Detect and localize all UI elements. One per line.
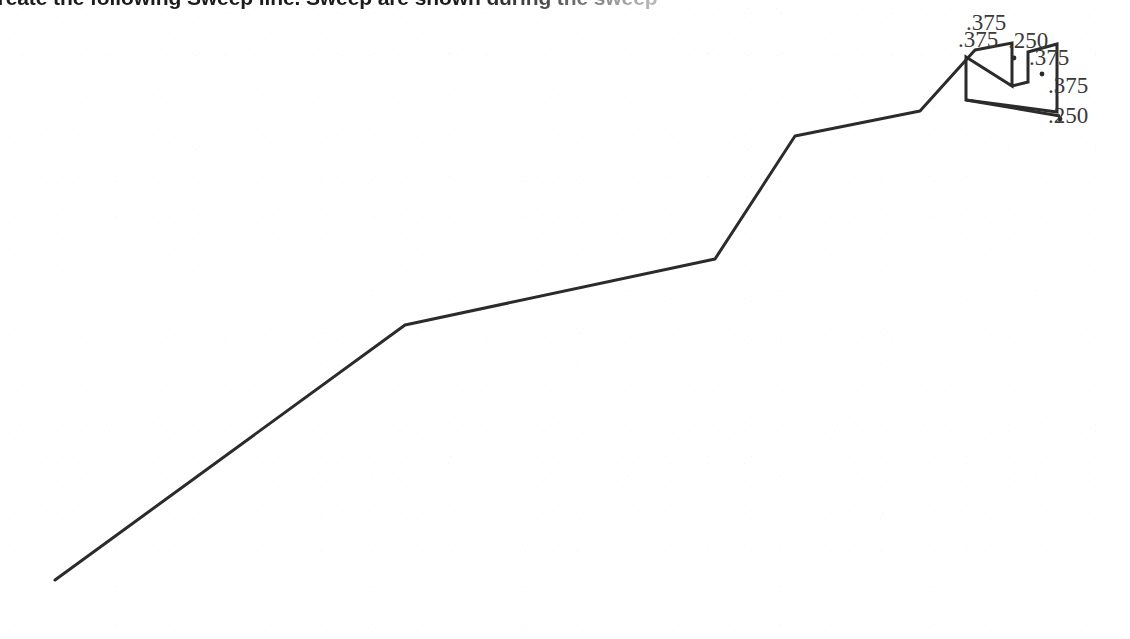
sweep-value-label: .250: [1048, 103, 1088, 128]
sweep-value-label: .375: [1029, 45, 1069, 70]
sweep-value-label: .375: [958, 27, 998, 52]
sweep-value-label: .375: [1048, 73, 1088, 98]
scanned-page: create the following Sweep line. Sweep a…: [0, 0, 1130, 639]
sweep-line-profile: [55, 50, 975, 580]
sweep-line-figure: .375.375.250.375.375.250: [0, 0, 1130, 639]
sweep-point-marker: [1012, 56, 1017, 61]
sweep-point-marker: [1040, 72, 1045, 77]
sweep-detail-tail: [966, 100, 1060, 116]
